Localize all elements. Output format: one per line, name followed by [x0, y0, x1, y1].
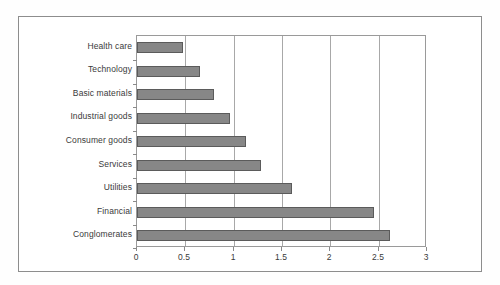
- bar: [137, 136, 246, 147]
- x-axis-tick: [426, 247, 427, 251]
- x-axis-tick: [329, 247, 330, 251]
- y-axis-label: Health care: [19, 41, 132, 51]
- y-axis-label: Utilities: [19, 182, 132, 192]
- bar-row: [137, 107, 425, 131]
- plot-area: [136, 35, 426, 247]
- x-axis-label: 2: [314, 252, 344, 262]
- outer-frame: Health careTechnologyBasic materialsIndu…: [18, 16, 482, 272]
- y-axis-labels: Health careTechnologyBasic materialsIndu…: [19, 35, 132, 247]
- x-axis-label: 1: [218, 252, 248, 262]
- x-axis-tick: [233, 247, 234, 251]
- bar: [137, 42, 183, 53]
- chart-screenshot: Health careTechnologyBasic materialsIndu…: [0, 0, 500, 285]
- y-axis-label: Basic materials: [19, 88, 132, 98]
- x-axis-tick: [184, 247, 185, 251]
- y-axis-label: Consumer goods: [19, 135, 132, 145]
- bar-row: [137, 154, 425, 178]
- bar: [137, 89, 214, 100]
- x-axis-label: 1.5: [266, 252, 296, 262]
- y-axis-label: Conglomerates: [19, 229, 132, 239]
- bar: [137, 207, 374, 218]
- bar: [137, 66, 200, 77]
- y-axis-label: Technology: [19, 64, 132, 74]
- bar-row: [137, 130, 425, 154]
- bar-row: [137, 201, 425, 225]
- x-axis-tick: [378, 247, 379, 251]
- y-axis-label: Financial: [19, 206, 132, 216]
- bar-row: [137, 224, 425, 248]
- bar-row: [137, 83, 425, 107]
- bar-row: [137, 177, 425, 201]
- x-axis-label: 3: [411, 252, 441, 262]
- bar: [137, 183, 292, 194]
- y-axis-label: Services: [19, 159, 132, 169]
- x-axis-tick: [136, 247, 137, 251]
- bars: [137, 36, 425, 246]
- bar: [137, 160, 261, 171]
- bar-chart: Health careTechnologyBasic materialsIndu…: [19, 17, 483, 273]
- y-axis-label: Industrial goods: [19, 111, 132, 121]
- bar: [137, 113, 230, 124]
- x-axis-label: 2.5: [363, 252, 393, 262]
- bar: [137, 230, 390, 241]
- bar-row: [137, 36, 425, 60]
- x-axis-label: 0.5: [169, 252, 199, 262]
- bar-row: [137, 60, 425, 84]
- x-axis-tick: [281, 247, 282, 251]
- x-axis-label: 0: [121, 252, 151, 262]
